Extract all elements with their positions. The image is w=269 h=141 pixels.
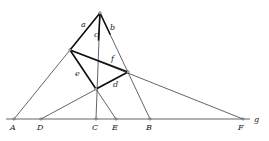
segment-b <box>100 13 110 34</box>
label-F: F <box>237 123 244 132</box>
point-A <box>13 118 15 120</box>
label-A: A <box>9 123 16 132</box>
segment-d <box>96 72 128 89</box>
label-B: B <box>145 123 152 132</box>
label-D: D <box>36 123 44 132</box>
point-D <box>40 118 42 120</box>
label-g: g <box>254 115 259 124</box>
segment-e <box>70 50 96 89</box>
point-apex <box>99 12 101 14</box>
point-C <box>95 118 97 120</box>
label-C: C <box>92 123 98 132</box>
point-F <box>242 118 244 120</box>
label-b: b <box>110 23 115 32</box>
label-a: a <box>81 20 86 29</box>
label-f: f <box>110 54 116 63</box>
label-e: e <box>75 69 80 78</box>
segment-c <box>99 13 101 40</box>
point-bottom <box>95 88 97 90</box>
point-right <box>127 71 129 73</box>
point-E <box>115 118 117 120</box>
geometric-diagram: a b c e f d g A D C E B F <box>0 0 269 141</box>
point-B <box>149 118 151 120</box>
point-left <box>69 49 71 51</box>
label-c: c <box>94 30 99 39</box>
label-E: E <box>111 123 118 132</box>
label-d: d <box>113 80 118 89</box>
